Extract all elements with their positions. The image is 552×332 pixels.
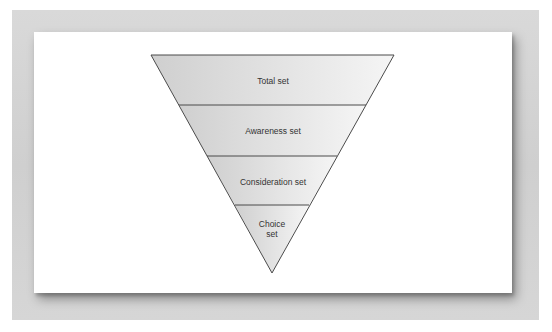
label-choice-line-2: set — [259, 229, 285, 239]
figure-stage: Total set Awareness set Consideration se… — [0, 0, 552, 332]
label-awareness-set: Awareness set — [245, 126, 301, 136]
label-consideration-set: Consideration set — [240, 177, 306, 187]
funnel-diagram — [0, 0, 552, 332]
label-total-set: Total set — [257, 76, 289, 86]
label-choice-set: Choice set — [259, 219, 285, 239]
label-choice-line-1: Choice — [259, 219, 285, 229]
figure-caption-clipped — [13, 323, 413, 332]
funnel-level-choice — [235, 205, 309, 273]
